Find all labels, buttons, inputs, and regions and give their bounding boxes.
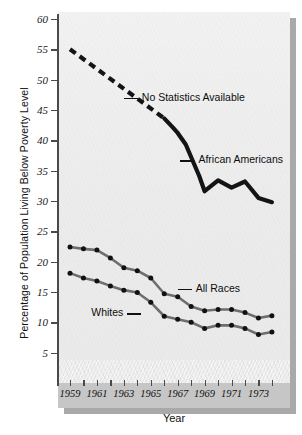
leader-line-african-americans: [180, 160, 194, 161]
y-axis-tick: [51, 19, 57, 21]
y-axis-tick-label: 20: [37, 256, 48, 268]
annotation-no-statistics-available: No Statistics Available: [142, 91, 245, 103]
data-point-all-races: [229, 307, 234, 312]
series-african-americans-dashed: [70, 49, 164, 118]
data-point-all-races: [148, 276, 153, 281]
annotation-african-americans: African Americans: [198, 153, 283, 165]
annotation-all-races: All Races: [196, 282, 240, 294]
series-whites: [70, 273, 272, 334]
y-axis-tick-label: 15: [37, 286, 48, 298]
data-point-whites: [68, 271, 73, 276]
data-point-all-races: [189, 304, 194, 309]
data-point-all-races: [269, 313, 274, 318]
data-point-all-races: [108, 255, 113, 260]
y-axis-tick-label: 60: [37, 13, 48, 25]
y-axis-tick-label: 25: [37, 225, 48, 237]
data-point-whites: [108, 283, 113, 288]
leader-line-whites: [127, 313, 141, 314]
leader-line-all-races: [178, 289, 192, 290]
data-point-whites: [135, 290, 140, 295]
data-point-whites: [202, 326, 207, 331]
y-axis-tick: [51, 353, 57, 355]
data-point-whites: [81, 276, 86, 281]
y-axis-tick-label: 45: [37, 104, 48, 116]
data-point-all-races: [202, 308, 207, 313]
data-point-whites: [256, 332, 261, 337]
poverty-line-chart: 51015202530354045505560 1959196119631965…: [0, 0, 302, 435]
y-axis-tick-label: 55: [37, 43, 48, 55]
data-point-whites: [94, 279, 99, 284]
data-point-all-races: [243, 310, 248, 315]
data-point-whites: [175, 317, 180, 322]
y-axis-tick: [51, 262, 57, 264]
data-point-whites: [189, 320, 194, 325]
data-point-whites: [243, 326, 248, 331]
data-point-all-races: [175, 294, 180, 299]
data-point-all-races: [216, 307, 221, 312]
data-point-whites: [216, 323, 221, 328]
y-axis-tick: [51, 292, 57, 294]
data-point-whites: [148, 300, 153, 305]
y-axis-tick: [51, 49, 57, 51]
data-point-whites: [121, 288, 126, 293]
data-point-all-races: [94, 248, 99, 253]
data-point-all-races: [68, 245, 73, 250]
y-axis-tick-label: 35: [37, 165, 48, 177]
data-point-whites: [269, 330, 274, 335]
y-axis-tick: [51, 201, 57, 203]
x-axis-title: Year: [58, 412, 290, 424]
data-point-all-races: [121, 265, 126, 270]
y-axis-tick-label: 30: [37, 195, 48, 207]
leader-line-no-statistics-available: [124, 98, 138, 99]
y-axis-tick-label: 50: [37, 74, 48, 86]
data-point-whites: [162, 314, 167, 319]
data-point-all-races: [162, 291, 167, 296]
y-axis-tick-label: 10: [37, 316, 48, 328]
data-point-all-races: [81, 246, 86, 251]
y-axis-tick-label: 5: [43, 347, 49, 359]
y-axis-tick: [51, 171, 57, 173]
data-point-all-races: [135, 268, 140, 273]
y-axis-tick: [51, 80, 57, 82]
series-lines: [58, 12, 290, 402]
y-axis-tick: [51, 140, 57, 142]
y-axis-title: Percentage of Population Living Below Po…: [18, 63, 30, 363]
y-axis-tick: [51, 110, 57, 112]
data-point-whites: [229, 323, 234, 328]
y-axis-tick-label: 40: [37, 134, 48, 146]
annotation-whites: Whites: [91, 306, 123, 318]
y-axis-tick: [51, 322, 57, 324]
y-axis-tick: [51, 231, 57, 233]
data-point-all-races: [256, 316, 261, 321]
